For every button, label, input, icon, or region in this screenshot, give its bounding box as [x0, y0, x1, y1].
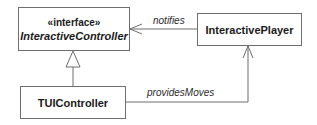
realization-generalization — [66, 51, 80, 86]
hollow-triangle-icon — [66, 51, 80, 67]
class-name: InteractiveController — [20, 29, 128, 43]
class-interactive-player[interactable]: InteractivePlayer — [197, 13, 302, 46]
stereotype-label: «interface» — [48, 16, 101, 29]
provides-moves-label: providesMoves — [147, 87, 214, 99]
class-name: TUIController — [38, 96, 108, 110]
class-tui-controller[interactable]: TUIController — [20, 86, 126, 119]
class-interactive-controller[interactable]: «interface» InteractiveController — [18, 7, 130, 51]
class-name: InteractivePlayer — [205, 23, 293, 37]
notifies-label: notifies — [153, 15, 185, 27]
uml-diagram: «interface» InteractiveController Intera… — [0, 0, 317, 125]
